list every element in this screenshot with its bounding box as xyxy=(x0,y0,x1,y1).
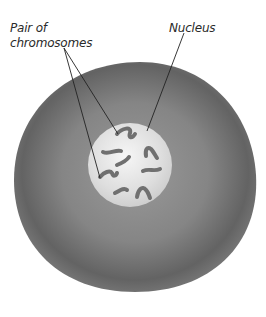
cell-diagram xyxy=(0,0,266,317)
